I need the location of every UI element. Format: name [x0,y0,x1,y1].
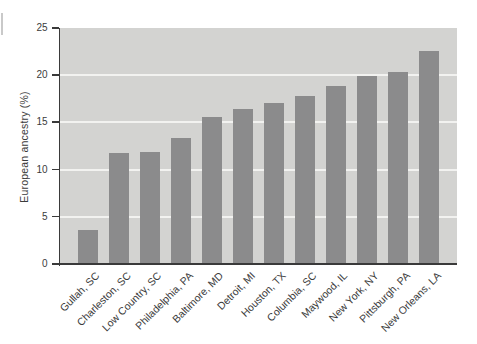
y-tick-label: 5 [22,211,48,222]
y-tick-label: 0 [22,258,48,269]
y-axis-line [59,28,61,266]
bar [388,72,408,263]
bar [295,96,315,263]
y-tick-mark [52,216,59,218]
x-category-label: New Orleans, LA [379,270,443,334]
bar [109,153,129,263]
bar [357,76,377,263]
bar [140,152,160,263]
y-tick-mark [52,121,59,123]
y-tick-label: 10 [22,164,48,175]
y-tick-mark [52,263,59,265]
y-tick-mark [52,74,59,76]
bar-chart: European ancestry (%) 0510152025Gullah, … [0,0,477,344]
scan-artifact-line [1,13,3,35]
y-tick-mark [52,169,59,171]
y-tick-mark [52,27,59,29]
x-axis-line [59,263,458,265]
bar [78,230,98,263]
bar [419,51,439,263]
y-tick-label: 15 [22,116,48,127]
y-axis-title: European ancestry (%) [18,91,30,203]
bar [233,109,253,263]
bar [264,103,284,263]
bar [202,117,222,263]
bar [171,138,191,263]
bar [326,86,346,263]
y-tick-label: 20 [22,69,48,80]
y-tick-label: 25 [22,22,48,33]
